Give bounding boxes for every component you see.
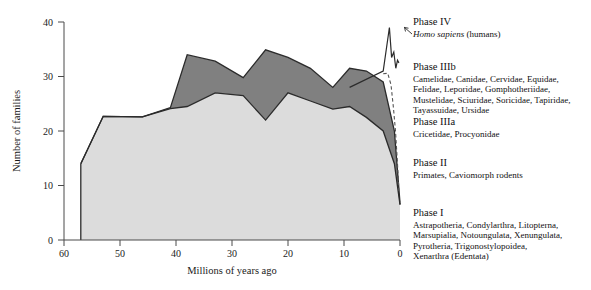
lower-band-area bbox=[81, 93, 400, 240]
legend-title-phase-ii: Phase II bbox=[413, 157, 591, 169]
legend-sub-phase-iiib-line3: Mustelidae, Sciuridae, Soricidae, Tapiri… bbox=[413, 95, 591, 105]
legend-group-phase-iv: Phase IV Homo sapiens (humans) bbox=[413, 16, 591, 39]
legend-italic-taxon: Homo sapiens bbox=[413, 29, 464, 39]
y-tick-label-30: 30 bbox=[43, 71, 53, 82]
legend-title-phase-iiia: Phase IIIa bbox=[413, 116, 591, 128]
x-tick-label-50: 50 bbox=[115, 248, 125, 259]
legend-title-phase-iv: Phase IV bbox=[413, 16, 591, 28]
x-tick-label-40: 40 bbox=[171, 248, 181, 259]
legend-sub-phase-iv: Homo sapiens (humans) bbox=[413, 29, 591, 39]
legend-sub-phase-iiib-line2: Felidae, Leporidae, Gomphotheriidae, bbox=[413, 84, 591, 94]
x-tick-label-60: 60 bbox=[59, 248, 69, 259]
legend-group-phase-ii: Phase II Primates, Caviomorph rodents bbox=[413, 157, 591, 180]
legend-sub-phase-i-line1: Astrapotheria, Condylarthra, Litopterna, bbox=[413, 220, 591, 230]
legend-sub-phase-i-line4: Xenarthra (Edentata) bbox=[413, 251, 591, 261]
legend-sub-phase-ii: Primates, Caviomorph rodents bbox=[413, 170, 591, 180]
y-tick-label-20: 20 bbox=[43, 126, 53, 137]
y-tick-label-40: 40 bbox=[43, 17, 53, 28]
figure-container: 0 10 20 30 40 60 50 40 30 20 10 0 Millio… bbox=[0, 0, 591, 290]
legend-sub-phase-iiib-line4: Tayassuidae, Ursidae bbox=[413, 105, 591, 115]
legend-title-phase-i: Phase I bbox=[413, 207, 591, 219]
x-tick-label-20: 20 bbox=[283, 248, 293, 259]
legend-sub-phase-iiia: Cricetidae, Procyonidae bbox=[413, 129, 591, 139]
y-tick-label-0: 0 bbox=[48, 235, 53, 246]
legend-title-phase-iiib: Phase IIIb bbox=[413, 61, 591, 73]
x-tick-label-0: 0 bbox=[398, 248, 403, 259]
x-tick-label-10: 10 bbox=[339, 248, 349, 259]
y-axis-title: Number of families bbox=[11, 90, 22, 172]
legend-group-phase-iiia: Phase IIIa Cricetidae, Procyonidae bbox=[413, 116, 591, 139]
legend: Phase IV Homo sapiens (humans) Phase III… bbox=[413, 0, 591, 290]
x-tick-label-30: 30 bbox=[227, 248, 237, 259]
legend-sub-phase-iiib-line1: Camelidae, Canidae, Cervidae, Equidae, bbox=[413, 74, 591, 84]
legend-group-phase-i: Phase I Astrapotheria, Condylarthra, Lit… bbox=[413, 207, 591, 262]
legend-sub-phase-i-line2: Marsupialia, Notoungulata, Xenungulata, bbox=[413, 230, 591, 240]
legend-group-phase-iiib: Phase IIIb Camelidae, Canidae, Cervidae,… bbox=[413, 61, 591, 116]
x-axis-title: Millions of years ago bbox=[187, 265, 277, 276]
legend-roman-note: (humans) bbox=[464, 29, 500, 39]
legend-sub-phase-i-line3: Pyrotheria, Trigonostylopoidea, bbox=[413, 241, 591, 251]
y-tick-label-10: 10 bbox=[43, 180, 53, 191]
